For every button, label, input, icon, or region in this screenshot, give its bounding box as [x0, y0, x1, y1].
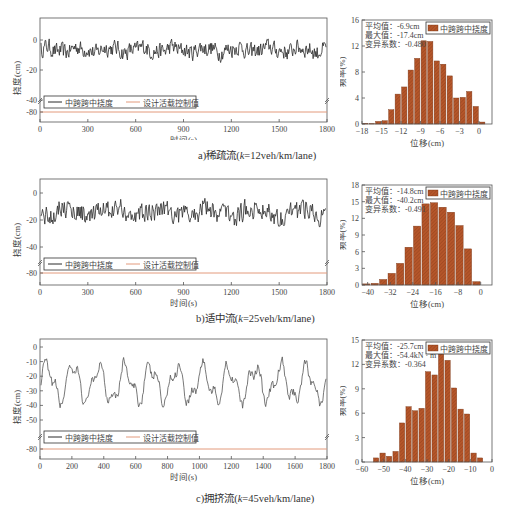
x-tick-label: 1600 — [287, 462, 303, 471]
histogram-bar — [473, 106, 478, 124]
histogram-bar — [467, 92, 472, 125]
legend-swatch — [428, 25, 438, 31]
x-tick-label: −50 — [377, 465, 390, 474]
histogram-bar — [451, 388, 456, 462]
y-tick-label: 12 — [351, 214, 359, 223]
histogram-bar — [456, 226, 463, 285]
x-tick-label: −9 — [416, 127, 425, 136]
x-axis-label: 时间(s) — [170, 472, 197, 482]
x-tick-label: 600 — [130, 288, 142, 297]
x-tick-label: 0 — [38, 125, 42, 134]
histogram-bar — [395, 94, 400, 124]
y-tick-label: -20 — [26, 66, 37, 75]
histogram-bar — [434, 61, 439, 124]
x-tick-label: −16 — [429, 288, 442, 297]
y-axis-label: 频率(%) — [340, 56, 347, 87]
deflection-series-line — [41, 39, 326, 63]
histogram-bar — [380, 453, 385, 462]
line-chart-c: 0-10-20-30-40-50-80020040060080010001200… — [0, 335, 340, 485]
x-tick-label: 1500 — [271, 288, 287, 297]
x-tick-label: 1800 — [319, 125, 335, 134]
caption-b: b)适中流(k=25veh/km/lane) — [196, 310, 315, 325]
y-tick-label: 12 — [351, 360, 359, 369]
histogram-bar — [458, 409, 463, 462]
legend: 中跨跨中挠度设计活载控制值 — [44, 431, 199, 443]
histogram-b: 0369121518−40−32−24−16−80位移(cm)频率(%)平均值：… — [340, 170, 510, 320]
x-tick-label: 1000 — [191, 462, 207, 471]
histogram-bar — [419, 408, 424, 462]
x-tick-label: 0 — [477, 127, 481, 136]
x-tick-label: 1500 — [271, 125, 287, 134]
legend-swatch — [428, 190, 438, 196]
y-tick-label: 8 — [355, 68, 359, 77]
y-tick-label: -20 — [26, 216, 37, 225]
histogram-bar — [382, 121, 387, 124]
legend-limit-label: 设计活载控制值 — [143, 260, 199, 270]
y-tick-label: 9 — [355, 231, 359, 240]
x-tick-label: −60 — [356, 465, 369, 474]
legend-label: 中跨跨中挠度 — [440, 24, 488, 34]
legend-label: 中跨跨中挠度 — [440, 189, 488, 199]
x-tick-label: −30 — [421, 465, 434, 474]
legend-swatch — [428, 345, 438, 351]
x-tick-label: −40 — [399, 465, 412, 474]
histogram-bar — [432, 375, 437, 462]
x-tick-label: 600 — [130, 125, 142, 134]
histogram-bar — [425, 372, 430, 462]
histogram-bar — [430, 203, 437, 285]
y-tick-label: -80 — [26, 108, 37, 117]
histogram-bar — [386, 456, 391, 462]
x-tick-label: 300 — [82, 125, 94, 134]
y-tick-label: -40 — [26, 243, 37, 252]
y-tick-label: 18 — [351, 181, 359, 190]
x-tick-label: −40 — [361, 288, 374, 297]
histogram-bar — [428, 41, 433, 124]
histogram-bar — [421, 41, 426, 124]
stat-annotation: 最大值：-17.4cm — [365, 30, 424, 40]
histogram-bar — [422, 204, 429, 285]
x-tick-label: −8 — [454, 288, 463, 297]
x-tick-label: −15 — [375, 127, 388, 136]
legend: 中跨跨中挠度 — [426, 187, 490, 199]
histogram-bar — [402, 87, 407, 124]
histogram-bar — [439, 207, 446, 285]
legend: 中跨跨中挠度设计活载控制值 — [44, 96, 199, 108]
histogram-bar — [447, 76, 452, 124]
x-tick-label: 200 — [66, 462, 78, 471]
line-chart-c-svg: 0-10-20-30-40-50-80020040060080010001200… — [0, 335, 340, 485]
x-tick-label: −6 — [436, 127, 445, 136]
y-tick-label: -80 — [26, 269, 37, 278]
x-tick-label: 800 — [162, 462, 174, 471]
histogram-bar — [412, 411, 417, 462]
stat-annotation: 变异系数：-0.364 — [365, 359, 426, 369]
histogram-bar — [441, 64, 446, 124]
histogram-bar — [471, 453, 476, 462]
histogram-bar — [399, 423, 404, 462]
histogram-bar — [464, 249, 471, 285]
y-tick-label: -40 — [26, 401, 37, 410]
histogram-bar — [445, 360, 450, 462]
histogram-bar — [373, 458, 378, 462]
histogram-bar — [397, 263, 404, 285]
x-axis-label: 位移(cm) — [410, 138, 444, 148]
y-tick-label: -10 — [26, 358, 37, 367]
x-tick-label: 0 — [479, 288, 483, 297]
histogram-bar — [408, 70, 413, 124]
histogram-bar — [406, 407, 411, 462]
legend: 中跨跨中挠度 — [426, 22, 490, 34]
legend: 中跨跨中挠度设计活载控制值 — [44, 258, 199, 270]
histogram-bar — [393, 451, 398, 462]
y-tick-label: 6 — [355, 248, 359, 257]
y-tick-label: 3 — [355, 264, 359, 273]
x-tick-label: 1800 — [319, 462, 335, 471]
x-tick-label: 300 — [82, 288, 94, 297]
y-axis-label: 挠度(cm) — [12, 223, 22, 257]
y-tick-label: 0 — [33, 36, 37, 45]
histogram-b-svg: 0369121518−40−32−24−16−80位移(cm)频率(%)平均值：… — [340, 170, 510, 320]
y-tick-label: -80 — [26, 445, 37, 454]
stat-annotation: 变异系数：-0.480 — [365, 39, 426, 49]
histogram-bar — [477, 458, 482, 462]
x-tick-label: 1200 — [223, 462, 239, 471]
y-tick-label: 15 — [351, 336, 359, 345]
legend-limit-label: 设计活载控制值 — [143, 98, 199, 108]
